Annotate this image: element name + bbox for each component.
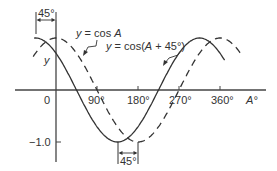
legend-cos45-text1: = cos( xyxy=(112,40,146,52)
legend-cos45-var: A xyxy=(144,40,152,52)
x-axis-label: A° xyxy=(245,94,258,106)
y-axis-label: y xyxy=(43,54,51,66)
legend-cos-a-arrow xyxy=(85,40,97,53)
chart: 0 90° 180° 270° 360° A° −1.0 y y = cos A… xyxy=(0,0,277,171)
origin-label: 0 xyxy=(44,94,50,106)
legend-cos45-arrow xyxy=(165,52,180,63)
shift-label-top: 45° xyxy=(38,7,55,19)
legend-cos-a-arrowhead xyxy=(83,50,88,56)
y-tick-label-neg1: −1.0 xyxy=(29,136,51,148)
x-tick-label-360: 360° xyxy=(211,94,234,106)
x-tick-label-90: 90° xyxy=(88,94,105,106)
legend-cos-a-text: = cos xyxy=(82,27,115,39)
legend-cos-a-plus-45: y = cos(A + 45°) xyxy=(105,40,185,52)
shift-label-bottom: 45° xyxy=(120,155,137,167)
x-tick-label-180: 180° xyxy=(127,94,150,106)
x-tick-label-270: 270° xyxy=(169,94,192,106)
legend-cos45-text2: + 45°) xyxy=(152,40,185,52)
legend-cos-a-var: A xyxy=(113,27,121,39)
legend-cos-a: y = cos A xyxy=(75,27,122,39)
